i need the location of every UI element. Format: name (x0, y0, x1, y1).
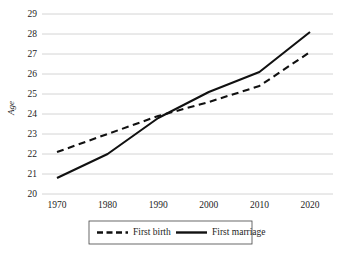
x-tick-label: 2020 (301, 200, 320, 210)
legend-label-first-birth: First birth (133, 227, 171, 237)
chart-legend: First birth First marriage (89, 221, 266, 244)
y-tick-label: 29 (28, 9, 38, 19)
y-tick-label: 27 (28, 49, 38, 59)
y-tick-label: 24 (28, 109, 38, 119)
x-tick-label: 2000 (199, 200, 218, 210)
y-tick-label: 22 (28, 149, 38, 159)
y-tick-label: 28 (28, 29, 38, 39)
y-tick-label: 21 (28, 169, 38, 179)
y-tick-label: 20 (28, 189, 38, 199)
y-axis-title: Age (6, 101, 16, 116)
legend-label-first-marriage: First marriage (212, 227, 266, 237)
x-tick-label: 2010 (250, 200, 269, 210)
chart-background (0, 0, 340, 255)
y-tick-label: 23 (28, 129, 38, 139)
x-tick-label: 1990 (149, 200, 168, 210)
y-tick-label: 26 (28, 69, 38, 79)
line-chart: 20212223242526272829 1970198019902000201… (0, 0, 340, 255)
x-tick-label: 1970 (48, 200, 67, 210)
y-tick-label: 25 (28, 89, 38, 99)
chart-canvas: 20212223242526272829 1970198019902000201… (0, 0, 340, 255)
x-tick-label: 1980 (98, 200, 117, 210)
